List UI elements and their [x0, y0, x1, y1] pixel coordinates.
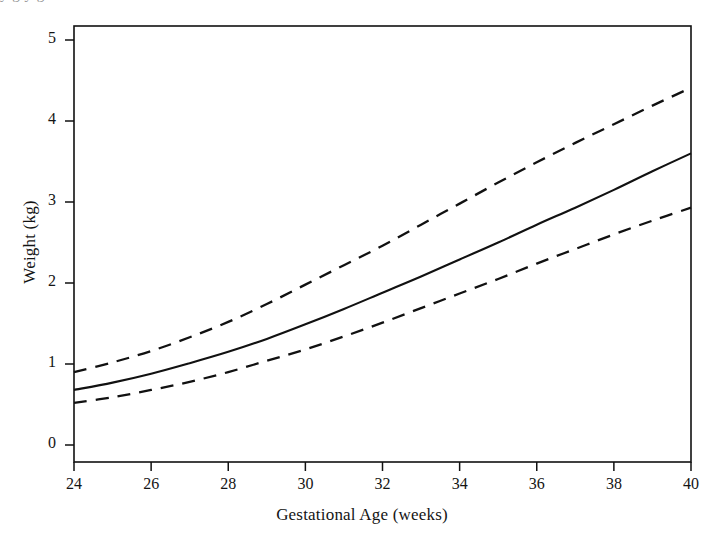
x-tick-label: 36 [517, 475, 557, 493]
chart-series-line [74, 88, 691, 372]
y-tick-label: 1 [34, 353, 56, 371]
y-axis-ticks [65, 40, 74, 445]
x-tick-label: 26 [131, 475, 171, 493]
y-tick-label: 4 [34, 110, 56, 128]
y-tick-label: 0 [34, 434, 56, 452]
x-tick-label: 40 [671, 475, 711, 493]
x-tick-label: 24 [54, 475, 94, 493]
chart-plot-area [0, 0, 724, 545]
y-axis-title: Weight (kg) [20, 142, 40, 342]
chart-series-line [74, 153, 691, 390]
chart-series-line [74, 208, 691, 403]
x-tick-label: 38 [594, 475, 634, 493]
x-tick-label: 30 [285, 475, 325, 493]
x-tick-label: 32 [363, 475, 403, 493]
x-tick-label: 28 [208, 475, 248, 493]
y-tick-label: 5 [34, 29, 56, 47]
chart-figure: y g y g 012345 242628303234363840 Gestat… [0, 0, 724, 545]
x-tick-label: 34 [440, 475, 480, 493]
x-axis-title: Gestational Age (weeks) [0, 505, 724, 525]
chart-series-group [74, 88, 691, 403]
x-axis-ticks [74, 462, 691, 471]
axes-frame [74, 26, 691, 462]
